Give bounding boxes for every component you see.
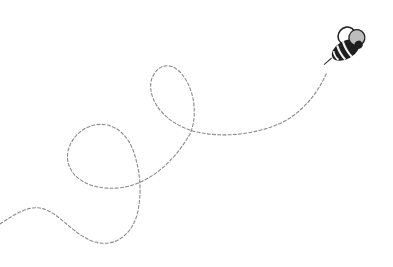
dashed-flight-trail bbox=[0, 66, 327, 243]
bee-illustration: bee flying with dashed loop trail bbox=[0, 0, 393, 267]
bee-icon bbox=[312, 18, 371, 70]
